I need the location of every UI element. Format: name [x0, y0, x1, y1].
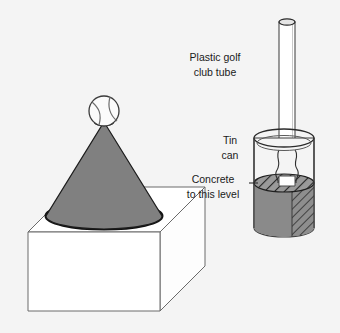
- cube-front-face: [28, 232, 160, 311]
- tube-submerged-segment: [279, 176, 295, 186]
- label-line: to this level: [187, 188, 240, 200]
- label-line: club tube: [194, 66, 237, 78]
- label-line: Plastic golf: [190, 51, 241, 63]
- tube-top-opening: [279, 19, 295, 25]
- label-line: Tin: [223, 134, 237, 146]
- ball-group: [89, 96, 119, 126]
- illustration-canvas: Plastic golf club tube Tin can Concrete …: [0, 0, 340, 333]
- diagram-svg: Plastic golf club tube Tin can Concrete …: [0, 0, 340, 333]
- label-line: can: [222, 149, 239, 161]
- label-line: Concrete: [192, 173, 235, 185]
- ball-sphere: [89, 96, 119, 126]
- tin-can-group: [254, 129, 316, 237]
